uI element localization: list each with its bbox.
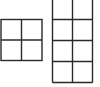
right-grid <box>53 0 93 83</box>
left-grid <box>1 20 42 61</box>
grid-diagram <box>0 0 100 87</box>
